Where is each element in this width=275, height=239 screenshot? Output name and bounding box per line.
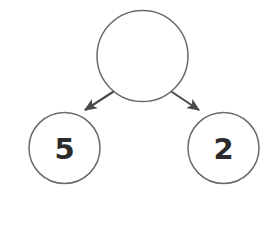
number-bond-canvas: 5 2: [0, 0, 275, 239]
whole-circle[interactable]: [97, 11, 188, 102]
part-circle-left-label: 5: [54, 132, 74, 166]
number-bond-diagram: 5 2: [0, 0, 275, 239]
part-circle-right-label: 2: [213, 132, 233, 166]
